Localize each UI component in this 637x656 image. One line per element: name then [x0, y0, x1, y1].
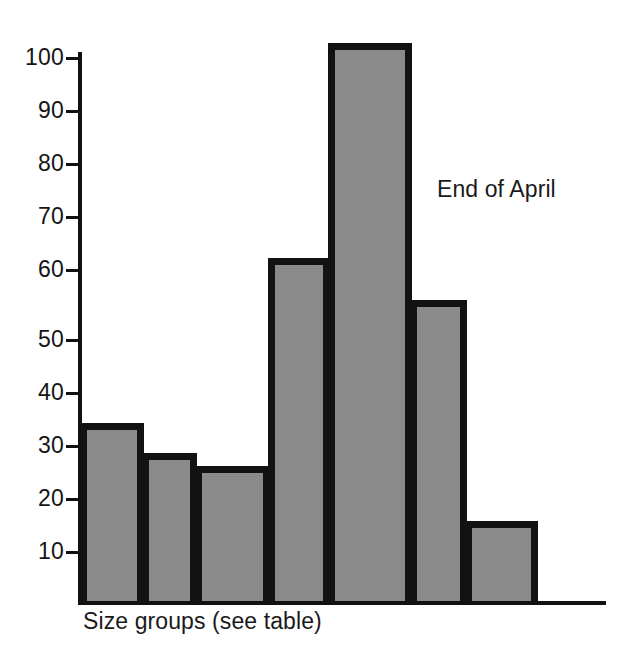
plot-area: [80, 30, 540, 605]
y-tick-label-80: 80: [6, 152, 64, 175]
y-tick-30: [66, 445, 79, 448]
bar-5: [328, 43, 412, 605]
y-tick-40: [66, 392, 79, 395]
y-tick-label-70: 70: [6, 205, 64, 228]
y-tick-80: [66, 163, 79, 166]
bar-7: [465, 521, 538, 605]
y-tick-60: [66, 269, 79, 272]
y-tick-label-20: 20: [6, 487, 64, 510]
y-tick-label-100: 100: [6, 46, 64, 69]
y-tick-label-60: 60: [6, 258, 64, 281]
y-tick-90: [66, 110, 79, 113]
y-tick-70: [66, 216, 79, 219]
bar-2: [142, 453, 197, 605]
bar-chart-figure: 100 90 80 70 60 50 40 30 20 10 End of Ap…: [0, 0, 637, 656]
y-tick-10: [66, 551, 79, 554]
bar-4: [268, 258, 330, 605]
y-tick-label-50: 50: [6, 328, 64, 351]
bar-1: [80, 423, 144, 605]
y-tick-label-30: 30: [6, 434, 64, 457]
x-axis-caption: Size groups (see table): [83, 608, 322, 635]
bar-3: [195, 466, 270, 605]
y-axis-tick-labels: 100 90 80 70 60 50 40 30 20 10: [0, 0, 64, 656]
y-tick-label-90: 90: [6, 99, 64, 122]
bar-6: [410, 300, 467, 605]
y-tick-100: [66, 57, 79, 60]
y-tick-label-40: 40: [6, 381, 64, 404]
annotation-end-of-april: End of April: [437, 176, 556, 202]
y-tick-20: [66, 498, 79, 501]
y-tick-50: [66, 339, 79, 342]
x-axis-line: [78, 601, 606, 605]
y-tick-label-10: 10: [6, 540, 64, 563]
